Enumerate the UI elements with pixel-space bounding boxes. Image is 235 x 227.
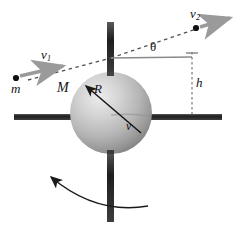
rotating-sphere bbox=[70, 72, 152, 154]
label-angle-theta: θ bbox=[150, 40, 156, 53]
physics-diagram: v1 v2 m M R v h θ bbox=[0, 0, 235, 227]
outgoing-velocity-arrow bbox=[200, 18, 230, 27]
horizontal-reference-line bbox=[111, 57, 192, 58]
label-outgoing-velocity: v2 bbox=[190, 7, 200, 22]
horizontal-axle-right bbox=[148, 114, 222, 120]
horizontal-axle-left bbox=[14, 114, 76, 120]
label-sphere-velocity: v bbox=[126, 120, 131, 132]
label-impact-height: h bbox=[196, 76, 203, 89]
label-incoming-velocity: v1 bbox=[41, 48, 51, 63]
diagram-canvas bbox=[0, 0, 235, 227]
outgoing-mass-dot bbox=[193, 25, 199, 31]
vertical-axle-top bbox=[107, 22, 114, 74]
label-point-mass: m bbox=[11, 82, 20, 95]
incoming-velocity-arrow bbox=[20, 66, 63, 76]
vertical-axle-sphere-exit bbox=[107, 150, 114, 154]
label-radius: R bbox=[94, 82, 102, 95]
rotation-direction-arrow bbox=[51, 177, 148, 208]
vertical-axle-sphere-entry bbox=[107, 72, 114, 76]
vertical-axle-bottom bbox=[107, 150, 114, 222]
label-sphere-mass: M bbox=[57, 81, 69, 95]
